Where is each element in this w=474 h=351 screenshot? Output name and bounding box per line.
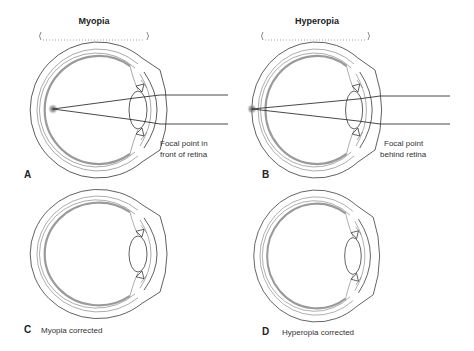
bracket-a (40, 32, 149, 40)
panel-label-b: B (262, 169, 269, 180)
caption-b-line2: behind retina (380, 150, 427, 159)
eye-b (252, 42, 382, 178)
ray-a-bottom (53, 109, 228, 124)
caption-b-line1: Focal point (384, 139, 424, 148)
bracket-b (262, 32, 370, 40)
panel-a-myopia: Myopia Focal point in front of retina A (24, 16, 228, 180)
hyperopia-title: Hyperopia (295, 16, 340, 26)
ray-b-bottom (252, 109, 450, 124)
myopia-title: Myopia (78, 16, 110, 26)
eye-c (30, 189, 167, 318)
eye-diagram: Myopia Focal point in front of retina A … (0, 0, 474, 351)
caption-a-line2: front of retina (160, 150, 208, 159)
panel-c-myopia-corrected: C Myopia corrected (24, 189, 167, 335)
panel-d-hyperopia-corrected: D Hyperopia corrected (254, 190, 380, 337)
panel-label-c: C (24, 324, 31, 335)
ray-a-top (53, 95, 228, 109)
panel-label-a: A (24, 169, 31, 180)
caption-a-line1: Focal point in (160, 139, 208, 148)
ray-b-top (252, 96, 450, 109)
eye-d (254, 190, 380, 322)
caption-c: Myopia corrected (41, 326, 102, 335)
panel-b-hyperopia: Hyperopia Focal point behind retina B (247, 16, 450, 180)
panel-label-d: D (262, 326, 269, 337)
caption-d: Hyperopia corrected (282, 328, 354, 337)
